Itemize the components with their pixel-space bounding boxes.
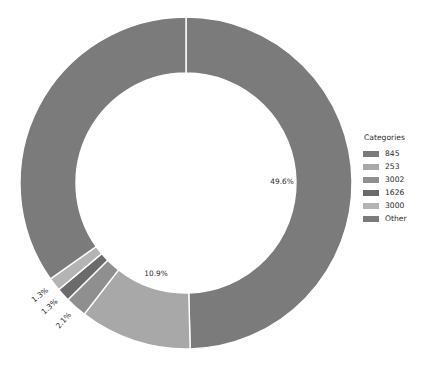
pie-slice-845[interactable] [186,17,352,349]
legend-item-label: 3000 [385,201,404,211]
legend-swatch-icon [363,203,379,209]
legend-item-3002[interactable]: 3002 [363,173,429,186]
pie-slice-label: 2.1% [54,310,73,330]
chart-legend: Categories 845 253 3002 1626 3000 Other [363,133,429,225]
legend-item-label: 1626 [385,188,404,198]
pie-slice-label: 10.9% [144,269,167,278]
pie-slice-other[interactable] [20,17,186,279]
donut-chart: 49.6%10.9%2.1%1.3%1.3% Categories 845 25… [0,0,431,367]
legend-item-253[interactable]: 253 [363,160,429,173]
legend-item-label: Other [385,214,407,224]
legend-item-other[interactable]: Other [363,212,429,225]
legend-item-1626[interactable]: 1626 [363,186,429,199]
legend-item-label: 3002 [385,175,404,185]
legend-item-label: 253 [385,162,400,172]
legend-swatch-icon [363,190,379,196]
legend-swatch-icon [363,216,379,222]
legend-swatch-icon [363,177,379,183]
pie-slice-label: 1.3% [40,297,60,316]
pie-slices-group [20,17,352,349]
legend-swatch-icon [363,151,379,157]
legend-swatch-icon [363,164,379,170]
legend-item-3000[interactable]: 3000 [363,199,429,212]
pie-slice-label: 49.6% [270,177,293,186]
legend-title: Categories [364,133,429,143]
legend-item-label: 845 [385,149,400,159]
legend-item-845[interactable]: 845 [363,147,429,160]
